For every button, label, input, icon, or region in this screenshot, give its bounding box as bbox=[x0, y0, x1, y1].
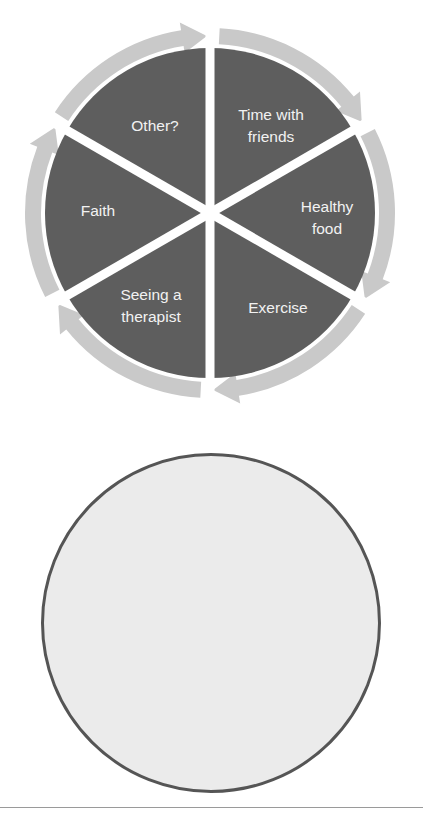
sector-label: Other? bbox=[131, 117, 179, 134]
divider-line bbox=[0, 807, 423, 808]
blank-circle-worksheet bbox=[41, 453, 381, 793]
sector-label: Exercise bbox=[248, 299, 307, 316]
cycle-wheel-diagram: Time withfriendsHealthyfoodExerciseSeein… bbox=[0, 0, 423, 440]
sector-label: Faith bbox=[81, 202, 115, 219]
